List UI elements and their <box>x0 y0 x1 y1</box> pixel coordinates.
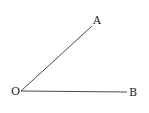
ray-ob <box>21 91 127 92</box>
angle-diagram: O A B <box>0 0 149 113</box>
label-o: O <box>11 85 20 98</box>
label-b: B <box>129 86 137 99</box>
label-a: A <box>92 14 102 27</box>
ray-oa <box>21 26 92 91</box>
